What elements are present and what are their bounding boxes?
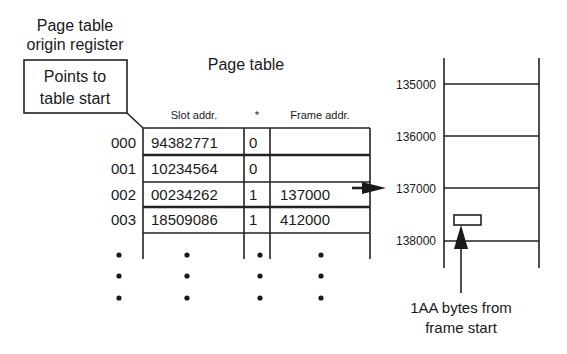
frame-addr: 137000 bbox=[280, 186, 330, 203]
memory-address-label: 135000 bbox=[396, 78, 436, 92]
offset-label-line2: frame start bbox=[425, 319, 498, 336]
column-header-flag: * bbox=[255, 109, 260, 121]
target-byte-box bbox=[454, 215, 481, 225]
column-header-frame: Frame addr. bbox=[290, 109, 349, 121]
table-row: 002 00234262 1 137000 bbox=[111, 186, 330, 203]
table-row: 003 18509086 1 412000 bbox=[111, 211, 330, 228]
register-title-line2: origin register bbox=[27, 36, 125, 53]
slot-addr: 10234564 bbox=[151, 160, 218, 177]
register-title-line1: Page table bbox=[37, 17, 114, 34]
valid-flag: 1 bbox=[249, 211, 257, 228]
continuation-dots bbox=[116, 252, 323, 300]
row-index: 002 bbox=[111, 186, 136, 203]
frame-addr: 412000 bbox=[280, 211, 330, 228]
row-index: 003 bbox=[111, 211, 136, 228]
row-index: 000 bbox=[111, 134, 136, 151]
table-row: 000 94382771 0 bbox=[111, 134, 257, 151]
column-header-slot: Slot addr. bbox=[171, 109, 217, 121]
memory-address-label: 137000 bbox=[396, 182, 436, 196]
offset-arrow-icon bbox=[454, 225, 468, 293]
register-pointer-line bbox=[127, 113, 143, 128]
table-row: 001 10234564 0 bbox=[111, 160, 257, 177]
page-table-diagram: Page table origin register Points to tab… bbox=[0, 0, 567, 354]
register-box-line1: Points to bbox=[44, 68, 106, 85]
valid-flag: 0 bbox=[249, 160, 257, 177]
offset-label-line1: 1AA bytes from bbox=[410, 299, 512, 316]
register-box-line2: table start bbox=[40, 90, 111, 107]
frame-pointer-arrow-icon bbox=[352, 182, 386, 194]
row-index: 001 bbox=[111, 160, 136, 177]
slot-addr: 94382771 bbox=[151, 134, 218, 151]
slot-addr: 18509086 bbox=[151, 211, 218, 228]
memory-address-label: 138000 bbox=[396, 234, 436, 248]
page-table-title: Page table bbox=[208, 56, 285, 73]
memory-address-label: 136000 bbox=[396, 130, 436, 144]
slot-addr: 00234262 bbox=[151, 186, 218, 203]
valid-flag: 1 bbox=[249, 186, 257, 203]
valid-flag: 0 bbox=[249, 134, 257, 151]
